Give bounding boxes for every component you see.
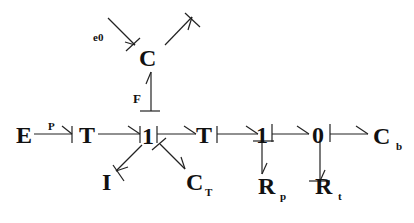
node-t2: T bbox=[196, 122, 212, 148]
node-junction-0: 0 bbox=[312, 122, 324, 148]
node-cb: C bbox=[373, 123, 390, 149]
node-rt: R bbox=[315, 173, 333, 199]
bond-1a-i bbox=[113, 145, 142, 181]
node-ct: C bbox=[186, 169, 203, 195]
node-rp: R bbox=[258, 173, 276, 199]
bond-t-1a bbox=[98, 126, 140, 143]
label-p: P bbox=[48, 120, 55, 132]
node-e: E bbox=[16, 122, 32, 148]
bond-1a-c bbox=[140, 72, 160, 111]
bond-e0-c bbox=[108, 18, 140, 51]
node-rp-subscript: p bbox=[280, 190, 286, 202]
node-junction-1a: 1 bbox=[142, 123, 154, 149]
node-ct-subscript: T bbox=[205, 186, 213, 198]
label-f: F bbox=[133, 91, 141, 106]
node-junction-1b: 1 bbox=[256, 122, 268, 148]
bond-graph-diagram: E T 1 T 1 0 C b C I C T R p R t P F e0 bbox=[0, 0, 414, 223]
bond-c-out bbox=[165, 13, 200, 45]
label-e0: e0 bbox=[93, 31, 104, 43]
node-c: C bbox=[139, 45, 156, 71]
node-rt-subscript: t bbox=[338, 190, 342, 202]
bond-t-1b bbox=[217, 126, 258, 143]
node-t1: T bbox=[79, 122, 95, 148]
node-i: I bbox=[102, 169, 111, 195]
bond-0-cb bbox=[330, 124, 368, 142]
node-cb-subscript: b bbox=[396, 140, 402, 152]
bond-1b-0 bbox=[272, 124, 309, 142]
